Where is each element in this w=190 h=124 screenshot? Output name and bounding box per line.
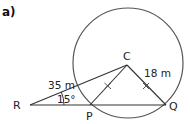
angle-label-R: 15°: [57, 93, 76, 105]
point-label-R: R: [13, 99, 21, 112]
point-label-C: C: [123, 50, 131, 63]
tick-mark-CP: [105, 83, 112, 89]
circle: [73, 8, 183, 118]
point-label-P: P: [86, 110, 93, 123]
geometry-diagram: a) C R P Q 35 m 18 m 15°: [0, 0, 190, 124]
part-label: a): [2, 5, 16, 19]
length-label-RC: 35 m: [48, 79, 75, 91]
line-RC: [30, 65, 127, 105]
point-label-Q: Q: [169, 100, 178, 113]
length-label-CQ: 18 m: [144, 67, 171, 79]
